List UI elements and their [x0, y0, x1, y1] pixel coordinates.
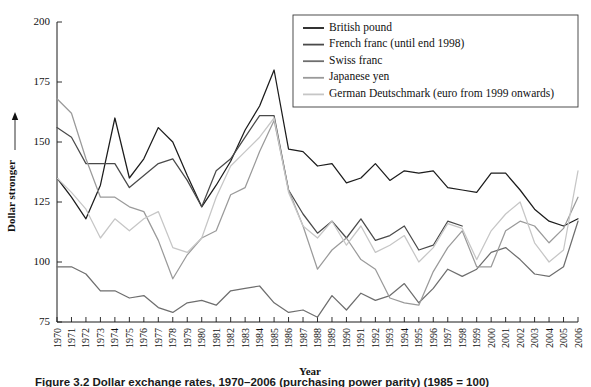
x-tick-label-1998: 1998 [457, 328, 468, 348]
x-tick-label-2006: 2006 [573, 328, 584, 348]
x-tick-label-1995: 1995 [413, 328, 424, 348]
x-tick-label-1980: 1980 [196, 328, 207, 348]
figure-caption: Figure 3.2 Dollar exchange rates, 1970–2… [35, 376, 489, 387]
series-line-japanese-yen [57, 99, 578, 305]
y-tick-label-125: 125 [34, 195, 51, 207]
x-tick-label-1974: 1974 [109, 328, 120, 348]
arrow-up-icon [12, 112, 18, 120]
x-tick-label-2002: 2002 [515, 328, 526, 348]
y-tick-label-175: 175 [34, 75, 51, 87]
legend-label-3: Japanese yen [329, 70, 390, 83]
x-tick-label-1989: 1989 [326, 328, 337, 348]
x-tick-label-2003: 2003 [529, 328, 540, 348]
x-tick-label-2005: 2005 [558, 328, 569, 348]
x-tick-label-1970: 1970 [52, 328, 63, 348]
x-tick-label-1999: 1999 [471, 328, 482, 348]
legend-label-1: French franc (until end 1998) [329, 37, 465, 50]
y-tick-label-100: 100 [34, 255, 51, 267]
x-tick-label-2004: 2004 [544, 328, 555, 348]
legend-label-4: German Deutschmark (euro from 1999 onwar… [329, 87, 554, 100]
x-tick-label-1997: 1997 [442, 328, 453, 348]
x-tick-label-1982: 1982 [225, 328, 236, 348]
x-tick-label-1994: 1994 [399, 328, 410, 348]
figure-container: 7510012515017520019701971197219731974197… [0, 0, 591, 387]
x-tick-label-1993: 1993 [384, 328, 395, 348]
x-tick-label-1992: 1992 [370, 328, 381, 348]
x-tick-label-1972: 1972 [80, 328, 91, 348]
x-tick-label-1975: 1975 [124, 328, 135, 348]
exchange-rate-line-chart: 7510012515017520019701971197219731974197… [0, 0, 591, 387]
x-tick-label-1990: 1990 [341, 328, 352, 348]
x-tick-label-1988: 1988 [312, 328, 323, 348]
x-tick-label-1979: 1979 [182, 328, 193, 348]
x-tick-label-1978: 1978 [167, 328, 178, 348]
legend-label-0: British pound [329, 21, 392, 34]
x-tick-label-1987: 1987 [298, 328, 309, 348]
x-tick-label-1996: 1996 [428, 328, 439, 348]
x-tick-label-1991: 1991 [355, 328, 366, 348]
y-tick-label-200: 200 [34, 15, 51, 27]
x-tick-label-1977: 1977 [153, 328, 164, 348]
x-tick-label-1976: 1976 [138, 328, 149, 348]
legend-label-2: Swiss franc [329, 54, 382, 66]
x-tick-label-2001: 2001 [500, 328, 511, 348]
x-tick-label-1973: 1973 [95, 328, 106, 348]
y-tick-label-75: 75 [39, 315, 51, 327]
x-tick-label-1986: 1986 [283, 328, 294, 348]
x-tick-label-1981: 1981 [211, 328, 222, 348]
x-tick-label-2000: 2000 [486, 328, 497, 348]
x-tick-label-1983: 1983 [240, 328, 251, 348]
x-tick-label-1984: 1984 [254, 328, 265, 348]
x-tick-label-1971: 1971 [66, 328, 77, 348]
y-axis-title: Dollar stronger [5, 160, 17, 232]
series-line-french-franc-until-end-1998 [57, 116, 462, 250]
x-tick-label-1985: 1985 [269, 328, 280, 348]
series-line-german-deutschmark-euro-from-1999-onwards [57, 118, 578, 262]
y-tick-label-150: 150 [34, 135, 51, 147]
